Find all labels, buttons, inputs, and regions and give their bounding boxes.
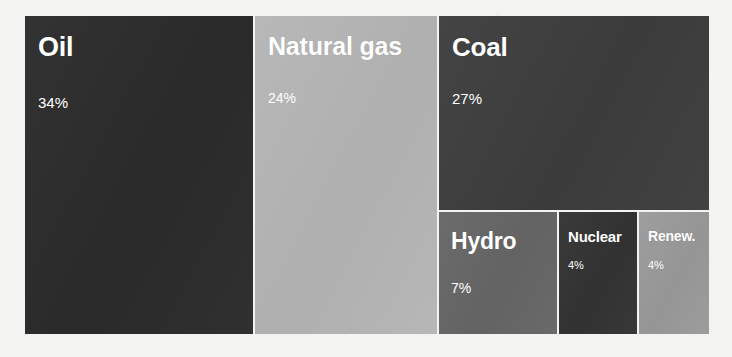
treemap-tile-renewables[interactable]: Renew. 4% bbox=[639, 212, 709, 334]
treemap-tile-natural-gas[interactable]: Natural gas 24% bbox=[255, 16, 437, 334]
treemap-tile-value-oil: 34% bbox=[38, 94, 68, 111]
treemap-tile-label-hydro: Hydro bbox=[451, 228, 516, 255]
treemap-tile-label-natural-gas: Natural gas bbox=[268, 32, 402, 61]
treemap-tile-nuclear[interactable]: Nuclear 4% bbox=[559, 212, 637, 334]
treemap-chart: Oil 34% Natural gas 24% Coal 27% Hydro 7… bbox=[25, 16, 709, 334]
treemap-tile-value-natural-gas: 24% bbox=[268, 90, 296, 106]
treemap-tile-value-coal: 27% bbox=[452, 90, 482, 107]
treemap-tile-label-renewables: Renew. bbox=[648, 228, 695, 244]
treemap-tile-value-hydro: 7% bbox=[451, 280, 471, 296]
treemap-tile-hydro[interactable]: Hydro 7% bbox=[439, 212, 557, 334]
treemap-tile-label-nuclear: Nuclear bbox=[568, 228, 622, 245]
treemap-tile-oil[interactable]: Oil 34% bbox=[25, 16, 253, 334]
treemap-tile-value-nuclear: 4% bbox=[568, 259, 584, 271]
treemap-tile-label-coal: Coal bbox=[452, 32, 508, 63]
treemap-tile-label-oil: Oil bbox=[38, 32, 73, 63]
treemap-tile-coal[interactable]: Coal 27% bbox=[439, 16, 709, 210]
treemap-tile-value-renewables: 4% bbox=[648, 259, 664, 271]
